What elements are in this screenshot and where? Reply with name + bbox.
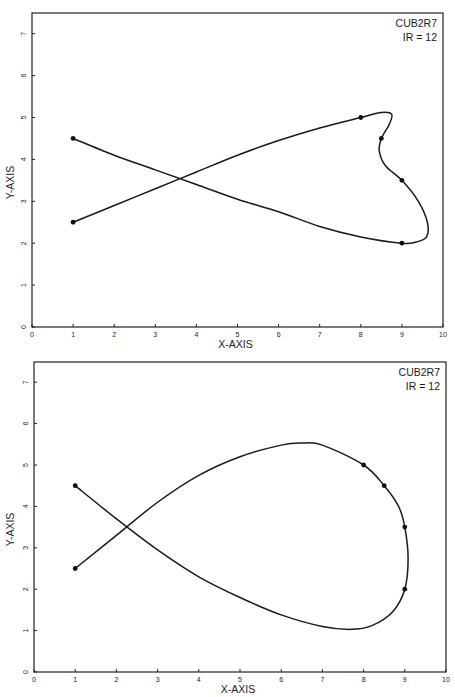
x-tick-label: 3 (156, 676, 160, 683)
x-tick-label: 10 (442, 676, 450, 683)
x-tick-label: 9 (400, 331, 404, 338)
x-tick-label: 8 (362, 676, 366, 683)
annotation-name: CUB2R7 (396, 17, 438, 29)
x-tick-label: 7 (318, 331, 322, 338)
x-tick-label: 4 (197, 676, 201, 683)
x-tick-label: 10 (439, 331, 447, 338)
y-tick-label: 5 (22, 463, 29, 467)
y-tick-label: 0 (22, 670, 29, 674)
y-tick-label: 7 (22, 380, 29, 384)
x-tick-label: 2 (114, 676, 118, 683)
x-axis-title: X-AXIS (218, 338, 252, 350)
y-ticks: 01234567 (20, 32, 35, 329)
x-ticks: 012345678910 (30, 324, 447, 338)
data-curve (73, 112, 428, 243)
control-point-marker (400, 241, 405, 246)
control-point-marker (71, 136, 76, 141)
control-points (71, 115, 405, 246)
x-tick-label: 6 (277, 331, 281, 338)
x-tick-label: 3 (153, 331, 157, 338)
plot-bottom: 012345678910 01234567 CUB2R7 IR = 12 X-A… (4, 362, 450, 695)
control-points (73, 463, 407, 592)
x-tick-label: 6 (279, 676, 283, 683)
x-tick-label: 5 (238, 676, 242, 683)
annotation-name: CUB2R7 (399, 366, 441, 378)
control-point-marker (402, 525, 407, 530)
y-tick-label: 5 (20, 115, 27, 119)
y-tick-label: 4 (20, 157, 27, 161)
control-point-marker (400, 178, 405, 183)
x-axis-title: X-AXIS (221, 683, 255, 695)
y-tick-label: 2 (22, 587, 29, 591)
plot-frame (32, 13, 443, 327)
y-tick-label: 6 (20, 74, 27, 78)
x-tick-label: 7 (320, 676, 324, 683)
plot-top: 012345678910 01234567 CUB2R7 IR = 12 X-A… (4, 13, 447, 350)
control-point-marker (382, 483, 387, 488)
y-tick-label: 4 (22, 504, 29, 508)
y-tick-label: 7 (20, 32, 27, 36)
figure: 012345678910 01234567 CUB2R7 IR = 12 X-A… (0, 0, 455, 697)
y-axis-title: Y-AXIS (4, 513, 16, 546)
y-tick-label: 2 (20, 241, 27, 245)
y-axis-title: Y-AXIS (4, 166, 16, 199)
x-tick-label: 0 (32, 676, 36, 683)
annotation-ir: IR = 12 (406, 380, 440, 392)
control-point-marker (361, 463, 366, 468)
x-tick-label: 2 (112, 331, 116, 338)
control-point-marker (358, 115, 363, 120)
control-point-marker (71, 220, 76, 225)
control-point-marker (402, 587, 407, 592)
y-tick-label: 3 (20, 199, 27, 203)
y-tick-label: 1 (22, 629, 29, 633)
y-ticks: 01234567 (22, 380, 37, 674)
plot-frame (34, 362, 446, 672)
control-point-marker (73, 483, 78, 488)
y-tick-label: 1 (20, 283, 27, 287)
y-tick-label: 6 (22, 422, 29, 426)
y-tick-label: 3 (22, 546, 29, 550)
x-tick-label: 1 (71, 331, 75, 338)
x-tick-label: 9 (403, 676, 407, 683)
x-tick-label: 0 (30, 331, 34, 338)
x-tick-label: 8 (359, 331, 363, 338)
data-curve (75, 443, 408, 630)
annotation-ir: IR = 12 (403, 31, 437, 43)
control-point-marker (73, 566, 78, 571)
x-tick-label: 1 (73, 676, 77, 683)
x-tick-label: 5 (236, 331, 240, 338)
x-tick-label: 4 (194, 331, 198, 338)
control-point-marker (379, 136, 384, 141)
y-tick-label: 0 (20, 325, 27, 329)
x-ticks: 012345678910 (32, 669, 450, 683)
